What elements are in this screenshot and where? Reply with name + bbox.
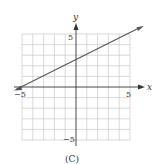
- x-axis-arrow-icon: [138, 85, 145, 90]
- plotted-line: [16, 27, 141, 90]
- y-axis-label: y: [72, 12, 79, 22]
- x-axis-label: x: [147, 82, 152, 92]
- x-tick-5: 5: [126, 90, 131, 99]
- y-tick-neg5: −5: [63, 135, 75, 144]
- figure-caption: (C): [65, 154, 79, 164]
- coordinate-plane: x y −5 5 5 −5 (C): [0, 0, 157, 164]
- x-tick-neg5: −5: [14, 90, 26, 99]
- y-axis-arrow-icon: [74, 23, 79, 30]
- line-arrow-right-icon: [137, 26, 145, 31]
- y-tick-5: 5: [68, 33, 73, 42]
